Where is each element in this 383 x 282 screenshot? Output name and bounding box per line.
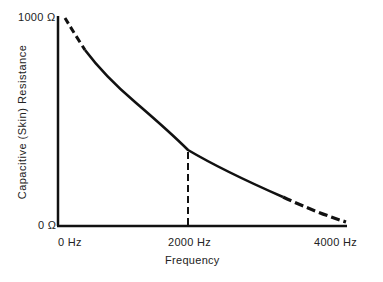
curve-solid [85, 50, 283, 197]
x-tick-2000: 2000 Hz [168, 236, 211, 248]
curve-dashed-start [65, 18, 85, 50]
x-tick-4000: 4000 Hz [314, 236, 357, 248]
y-tick-top: 1000 Ω [18, 11, 56, 23]
y-axis-label: Capacitive (Skin) Resistance [16, 45, 28, 200]
y-tick-bottom: 0 Ω [38, 219, 56, 231]
curve-dashed-end [283, 197, 346, 222]
x-tick-0: 0 Hz [58, 236, 82, 248]
chart: 1000 Ω 0 Ω 0 Hz 2000 Hz 4000 Hz Frequenc… [0, 0, 383, 282]
x-axis-label: Frequency [165, 254, 220, 266]
